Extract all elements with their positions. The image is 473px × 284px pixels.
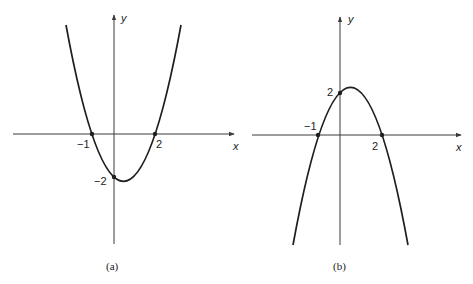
root-point-2	[380, 133, 384, 137]
panel-caption: (b)	[333, 260, 346, 273]
panel-b: −1 2 2 x y (b)	[252, 13, 462, 273]
y-intercept-point	[338, 91, 342, 95]
tick-label-2: 2	[372, 140, 378, 152]
x-axis-label: x	[232, 140, 239, 152]
parabola-curve	[293, 87, 408, 245]
tick-label-2: 2	[156, 138, 162, 150]
panel-a: −1 2 −2 x y (a)	[13, 12, 239, 273]
x-axis-label: x	[455, 141, 462, 153]
root-point-neg1	[90, 132, 94, 136]
y-axis-label: y	[120, 12, 128, 24]
root-point-neg1	[316, 133, 320, 137]
tick-label-neg1: −1	[304, 120, 317, 132]
panel-caption: (a)	[106, 260, 119, 273]
tick-label-neg1: −1	[77, 138, 90, 150]
tick-label-y2: 2	[327, 86, 333, 98]
figure: −1 2 −2 x y (a) −1 2 2 x y (b)	[0, 0, 473, 284]
y-intercept-point	[112, 175, 116, 179]
y-axis-label: y	[347, 13, 355, 25]
root-point-2	[153, 132, 157, 136]
tick-label-neg2: −2	[94, 175, 107, 187]
parabola-curve	[66, 25, 181, 181]
